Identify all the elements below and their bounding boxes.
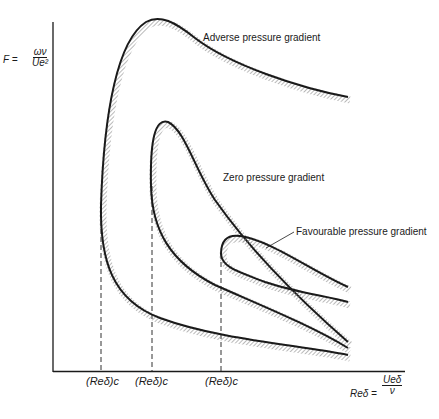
y-axis-label-fraction: ων Ue² [32,47,48,68]
adverse-curve-label: Adverse pressure gradient [203,32,320,43]
favourable-leader-line [266,232,294,248]
x-axis-label-lhs: Reδ = [350,388,377,399]
y-axis-label-lhs: F = [3,54,18,65]
zero-curve-label: Zero pressure gradient [223,172,324,183]
x-axis-label-fraction: Ueδ ν [382,375,402,396]
critical-re-label-zero: (Reδ)c [135,375,168,387]
critical-re-label-favourable: (Reδ)c [205,375,238,387]
stability-diagram [0,0,439,419]
favourable-curve-label: Favourable pressure gradient [296,226,427,237]
critical-re-label-adverse: (Reδ)c [86,375,119,387]
